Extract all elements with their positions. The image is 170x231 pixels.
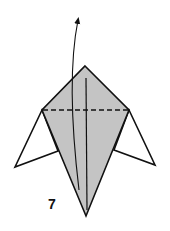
origami-figure [0, 0, 170, 231]
step-number-label: 7 [48, 197, 56, 211]
origami-step-diagram: 7 [0, 0, 170, 231]
